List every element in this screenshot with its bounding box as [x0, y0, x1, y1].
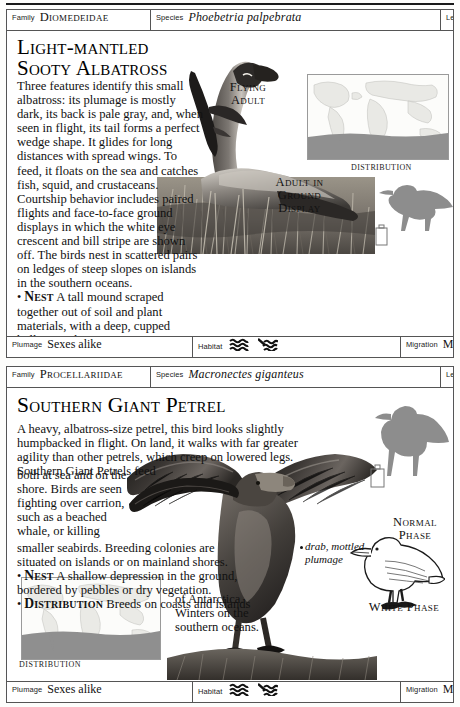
migration-cell: Migration Migrant: [400, 337, 453, 357]
white-phase-label: White Phase: [358, 601, 450, 614]
habitat-label: Habitat: [198, 342, 222, 351]
petrel-distribution-continued: of Antarctica. Winters on the southern o…: [175, 592, 265, 634]
page-title-petrel: Southern Giant Petrel: [17, 394, 317, 416]
migration-cell: Migration Migrant: [400, 682, 453, 702]
entry1-header-bar: Family Diomedeidae Species Phoebetria pa…: [7, 10, 453, 31]
plumage-label: Plumage: [12, 340, 42, 349]
nest-term: Nest: [24, 289, 54, 304]
albatross-body-text: Three features identify this small albat…: [17, 79, 203, 290]
page-top-rule: [6, 3, 454, 5]
field-guide-page: Family Diomedeidae Species Phoebetria pa…: [0, 0, 460, 707]
flying-adult-label: Flying Adult: [212, 81, 284, 107]
wave-coast-icon: [258, 683, 278, 696]
length-cell: Length 37 in (95 cm): [440, 367, 453, 387]
distribution-map-caption: DISTRIBUTION: [351, 163, 451, 172]
page-title-albatross: Light-mantled Sooty Albatross: [17, 37, 192, 79]
petrel-body-part3: smaller seabirds. Breeding colonies are …: [17, 541, 228, 569]
entry1-body: DISTRIBUTION Light-mantled Sooty Albatro…: [7, 31, 453, 336]
species-cell: Species Macronectes giganteus: [150, 367, 440, 387]
migration-value: Migrant: [443, 337, 453, 352]
distribution-map-caption: DISTRIBUTION: [19, 660, 81, 669]
family-label: Family: [12, 370, 35, 379]
scale-reference-icon: [374, 224, 389, 246]
plumage-value: Sexes alike: [47, 682, 101, 697]
plumage-cell: Plumage Sexes alike: [7, 682, 192, 702]
waves-icon: [229, 683, 249, 696]
species-entry-albatross: Family Diomedeidae Species Phoebetria pa…: [6, 9, 454, 358]
ground-display-label: Adult in Ground Display: [257, 176, 342, 215]
scale-reference-icon: [369, 464, 386, 488]
normal-phase-label: Normal Phase: [382, 516, 448, 542]
family-cell: Family Diomedeidae: [7, 10, 150, 30]
distribution-map-albatross: [307, 74, 449, 160]
length-label: Length: [446, 13, 453, 22]
habitat-icon-group: [229, 338, 278, 351]
wave-coast-icon: [258, 338, 278, 351]
waves-icon: [229, 338, 249, 351]
drab-plumage-dot: [300, 546, 303, 549]
habitat-label: Habitat: [198, 687, 222, 696]
family-label: Family: [12, 13, 35, 22]
migration-label: Migration: [406, 685, 438, 694]
family-value: Diomedeidae: [40, 10, 109, 25]
entry2-footer-bar: Plumage Sexes alike Habitat: [7, 681, 453, 702]
plumage-cell: Plumage Sexes alike: [7, 337, 192, 357]
petrel-body-part2: both at sea and on the shore. Birds are …: [17, 468, 126, 538]
distribution-term: Distribution: [24, 596, 103, 611]
family-cell: Family Procellariidae: [7, 367, 150, 387]
species-cell: Species Phoebetria palpebrata: [150, 10, 440, 30]
species-label: Species: [156, 13, 183, 22]
habitat-cell: Habitat: [192, 337, 400, 357]
plumage-value: Sexes alike: [47, 337, 101, 352]
petrel-description-part2: both at sea and on the shore. Birds are …: [17, 468, 142, 538]
plumage-label: Plumage: [12, 685, 42, 694]
habitat-cell: Habitat: [192, 682, 400, 702]
species-label: Species: [156, 370, 183, 379]
species-value: Phoebetria palpebrata: [188, 10, 301, 25]
drab-plumage-caption: drab, mottled plumage: [305, 540, 375, 565]
species-value: Macronectes giganteus: [188, 367, 303, 382]
migration-label: Migration: [406, 340, 438, 349]
habitat-icon-group: [229, 683, 278, 696]
migration-value: Migrant: [443, 682, 453, 697]
family-value: Procellariidae: [40, 367, 123, 382]
nest-term: Nest: [24, 568, 54, 583]
length-cell: Length 34 in (85 cm): [440, 10, 453, 30]
entry1-footer-bar: Plumage Sexes alike Habitat: [7, 336, 453, 357]
albatross-description: Three features identify this small albat…: [17, 79, 203, 336]
entry2-header-bar: Family Procellariidae Species Macronecte…: [7, 367, 453, 388]
length-label: Length: [446, 370, 453, 379]
